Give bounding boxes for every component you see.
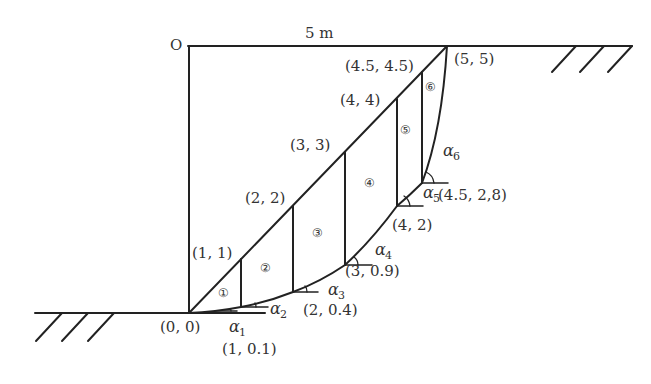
point-label-1-0.1: (1, 0.1): [222, 340, 277, 358]
svg-text:3: 3: [338, 289, 345, 302]
point-label-2-2: (2, 2): [245, 189, 285, 207]
point-label-4-4: (4, 4): [340, 91, 380, 109]
point-label-2-0.4: (2, 0.4): [303, 301, 358, 319]
slice-number-4: ④: [364, 176, 375, 190]
slice-number-2: ②: [260, 261, 271, 275]
point-label-5-5: (5, 5): [454, 50, 494, 68]
svg-text:4: 4: [385, 249, 392, 262]
svg-text:6: 6: [453, 150, 460, 163]
hatch-bottom-left: [36, 313, 114, 341]
slope-stability-diagram: O 5 m (0, 0) (1, 1) (2, 2) (3, 3) (4, 4)…: [0, 0, 651, 384]
point-label-3-0.9: (3, 0.9): [345, 262, 400, 280]
point-label-1-1: (1, 1): [192, 244, 232, 262]
origin-label: O: [170, 36, 182, 54]
angle-label-4: α 4: [375, 240, 392, 262]
point-label-0-0: (0, 0): [160, 318, 200, 336]
angle-label-3: α 3: [328, 280, 345, 302]
angle-label-2: α 2: [270, 299, 287, 321]
angle-label-6: α 6: [443, 141, 460, 163]
slope-face-line: [189, 46, 447, 313]
point-label-4-2: (4, 2): [392, 216, 432, 234]
svg-text:2: 2: [280, 308, 287, 321]
slice-number-3: ③: [312, 226, 323, 240]
svg-text:1: 1: [239, 326, 246, 339]
hatch-top-right: [552, 46, 632, 72]
width-label: 5 m: [305, 24, 334, 42]
point-label-4.5-4.5: (4.5, 4.5): [345, 57, 414, 75]
angle-arc-6: [426, 172, 434, 183]
slice-number-1: ①: [218, 286, 229, 300]
point-label-4.5-2.8: (4.5, 2,8): [438, 186, 507, 204]
slice-number-6: ⑥: [425, 80, 436, 94]
angle-label-1: α 1: [229, 317, 246, 339]
slice-number-5: ⑤: [400, 123, 411, 137]
point-label-3-3: (3, 3): [290, 136, 330, 154]
svg-text:5: 5: [433, 192, 440, 205]
